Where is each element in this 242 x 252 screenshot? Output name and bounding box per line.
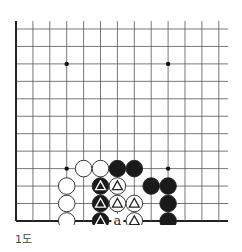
star-point bbox=[65, 62, 69, 66]
black-stone bbox=[160, 178, 177, 195]
white-stone bbox=[92, 160, 109, 177]
white-stone bbox=[58, 178, 75, 195]
black-stone bbox=[143, 178, 160, 195]
black-stone bbox=[126, 160, 143, 177]
white-stone bbox=[75, 160, 92, 177]
white-stone bbox=[58, 213, 75, 225]
white-stone bbox=[58, 195, 75, 212]
star-point bbox=[166, 62, 170, 66]
black-stone bbox=[160, 195, 177, 212]
black-stone bbox=[109, 160, 126, 177]
star-point bbox=[166, 166, 170, 170]
diagram-caption: 1도 bbox=[15, 230, 32, 246]
go-board: a bbox=[0, 0, 242, 225]
black-stone bbox=[160, 213, 177, 225]
point-label: a bbox=[114, 213, 122, 225]
star-point bbox=[65, 166, 69, 170]
